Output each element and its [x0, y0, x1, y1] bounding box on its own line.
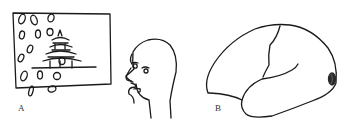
- panel-label-b: B: [215, 103, 221, 113]
- figure-drawing: [0, 0, 350, 127]
- head-profile-icon: [126, 39, 176, 118]
- figure: A B: [0, 0, 350, 127]
- brain-outline-icon: [207, 25, 337, 118]
- panel-label-a: A: [18, 103, 25, 113]
- lesion-marker: [329, 73, 336, 85]
- petals-icon: [17, 13, 65, 96]
- ground-line: [32, 67, 96, 68]
